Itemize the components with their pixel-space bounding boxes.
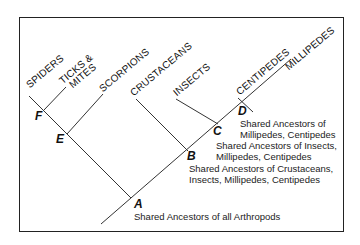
cladogram-diagram: SPIDERS TICKS & MITES SCORPIONS CRUSTACE… xyxy=(0,0,360,245)
node-d-label: D xyxy=(238,105,247,117)
spiders-branch xyxy=(29,96,131,198)
node-a-label: A xyxy=(134,198,143,210)
node-d-description-line2: Millipedes, Centipedes xyxy=(240,129,336,140)
node-c-description-line1: Shared Ancestors of Insects, xyxy=(216,140,337,151)
crustaceans-branch xyxy=(136,99,188,151)
node-a-description: Shared Ancestors of all Arthropods xyxy=(134,211,280,222)
node-e-label: E xyxy=(56,133,64,145)
node-c-description-line2: Millipedes, Centipedes xyxy=(216,151,312,162)
ticks-branch xyxy=(44,87,66,110)
scorpions-branch xyxy=(67,94,103,134)
insects-branch xyxy=(176,99,218,124)
node-f-label: F xyxy=(35,110,42,122)
node-b-description-line2: Insects, Millipedes, Centipedes xyxy=(189,174,320,185)
node-c-label: C xyxy=(213,125,222,137)
node-d-description-line1: Shared Ancestors of xyxy=(240,118,326,129)
node-b-label: B xyxy=(187,150,196,162)
node-b-description-line1: Shared Ancestors of Crustaceans, xyxy=(189,163,333,174)
